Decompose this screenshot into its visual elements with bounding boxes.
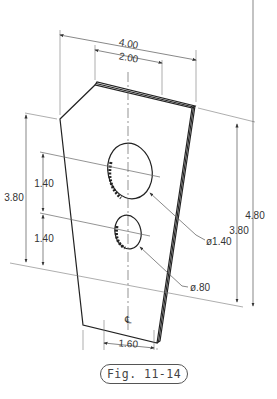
dim-small-hole-diameter: ø.80 [190,282,210,293]
dim-large-hole-diameter: ø1.40 [206,236,232,247]
dim-bottom-width: 1.60 [118,337,139,350]
plate-outline [60,82,195,343]
technical-drawing: 4.00 2.00 3.80 1.40 1.40 3.80 4.80 ø1.40… [0,0,277,399]
dim-top-width: 2.00 [118,50,140,64]
dim-right-height-outer: 4.80 [245,210,265,221]
centerlines [40,72,160,330]
dim-right-height-inner: 3.80 [229,225,249,236]
dimension-labels: 4.00 2.00 3.80 1.40 1.40 3.80 4.80 ø1.40… [4,36,265,349]
dim-hole-spacing-lower: 1.40 [34,233,54,244]
dim-hole-spacing-upper: 1.40 [34,178,54,189]
figure-caption: Fig. 11-14 [100,364,188,384]
extension-lines [10,30,255,350]
centerline-symbol: ℄ [124,314,132,325]
dim-overall-width: 4.00 [118,36,140,50]
dim-left-height: 3.80 [4,192,24,203]
